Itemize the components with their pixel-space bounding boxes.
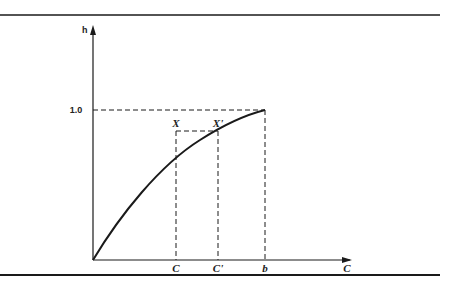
- diagram-canvas: h 1.0 X X' C C' b C: [0, 0, 449, 288]
- x-tick-b: b: [262, 262, 268, 274]
- x-tick-c: C: [172, 262, 180, 274]
- y-axis-label: h: [82, 25, 88, 35]
- y-tick-label: 1.0: [70, 105, 83, 115]
- point-x-prime-label: X': [212, 117, 223, 129]
- point-x-label: X: [171, 117, 180, 129]
- y-axis-arrow-icon: [90, 25, 96, 35]
- x-tick-c-prime: C': [213, 262, 223, 274]
- x-axis-label: C: [343, 262, 351, 274]
- h-curve: [93, 110, 265, 260]
